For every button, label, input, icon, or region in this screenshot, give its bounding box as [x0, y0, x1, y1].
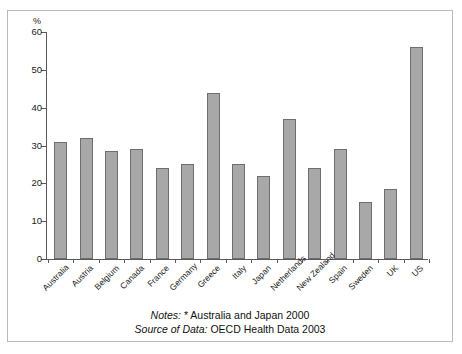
x-tick-mark — [99, 259, 100, 263]
y-tick-label: 40 — [31, 101, 42, 114]
x-label-japan: Japan — [243, 263, 273, 293]
chart-figure: % 0102030405060 AustraliaAustriaBelgiumC… — [7, 10, 453, 342]
x-tick-mark — [353, 259, 354, 263]
bar-uk — [384, 189, 397, 259]
source-text: OECD Health Data 2003 — [210, 323, 325, 335]
y-tick-label: 20 — [31, 176, 42, 189]
x-tick-mark — [302, 259, 303, 263]
bar-spain — [334, 149, 347, 259]
x-tick-mark — [251, 259, 252, 263]
bar-slot — [99, 32, 124, 259]
y-tick-label: 10 — [31, 214, 42, 227]
bar-australia — [54, 142, 67, 259]
bar-slot — [73, 32, 98, 259]
x-tick-mark — [200, 259, 201, 263]
bar-france — [156, 168, 169, 259]
x-tick-mark — [73, 259, 74, 263]
x-tick-mark — [378, 259, 379, 263]
bar-netherlands — [283, 119, 296, 259]
y-tick-label: 30 — [31, 139, 42, 152]
notes-label: Notes: — [151, 309, 181, 321]
chart-notes: Notes: * Australia and Japan 2000 Source… — [8, 308, 452, 336]
x-label-sweden: Sweden — [345, 263, 375, 293]
x-label-netherlands: Netherlands — [269, 263, 299, 293]
x-tick-mark — [175, 259, 176, 263]
y-tick-label: 60 — [31, 25, 42, 38]
x-label-belgium: Belgium — [91, 263, 121, 293]
bar-slot — [327, 32, 352, 259]
x-tick-mark — [226, 259, 227, 263]
bar-slot — [251, 32, 276, 259]
source-label: Source of Data: — [135, 323, 208, 335]
x-label-austria: Austria — [65, 263, 95, 293]
bar-slot — [226, 32, 251, 259]
bar-slot — [302, 32, 327, 259]
bar-us — [410, 47, 423, 259]
source-line: Source of Data: OECD Health Data 2003 — [8, 322, 452, 336]
bar-italy — [232, 164, 245, 259]
x-label-germany: Germany — [167, 263, 197, 293]
y-tick-label: 0 — [37, 252, 42, 265]
bar-slot — [277, 32, 302, 259]
bar-slot — [48, 32, 73, 259]
x-tick-mark — [327, 259, 328, 263]
x-tick-mark — [277, 259, 278, 263]
bar-slot — [200, 32, 225, 259]
x-tick-mark — [150, 259, 151, 263]
x-label-us: US — [396, 263, 426, 293]
x-tick-mark — [404, 259, 405, 263]
x-label-uk: UK — [370, 263, 400, 293]
bar-germany — [181, 164, 194, 259]
y-tick-label: 50 — [31, 63, 42, 76]
bar-slot — [353, 32, 378, 259]
bar-slot — [175, 32, 200, 259]
x-tick-mark — [124, 259, 125, 263]
bar-new-zealand — [308, 168, 321, 259]
x-label-italy: Italy — [218, 263, 248, 293]
x-tick-mark — [429, 259, 430, 263]
bar-slot — [150, 32, 175, 259]
x-label-australia: Australia — [40, 263, 70, 293]
bar-austria — [80, 138, 93, 259]
notes-text: * Australia and Japan 2000 — [184, 309, 310, 321]
notes-line: Notes: * Australia and Japan 2000 — [8, 308, 452, 322]
bar-canada — [130, 149, 143, 259]
bar-slot — [124, 32, 149, 259]
x-axis-line — [46, 259, 428, 260]
x-label-france: France — [142, 263, 172, 293]
bar-slot — [404, 32, 429, 259]
bar-greece — [207, 93, 220, 259]
x-tick-mark — [48, 259, 49, 263]
bar-belgium — [105, 151, 118, 259]
bar-japan — [257, 176, 270, 259]
bar-slot — [378, 32, 403, 259]
bar-sweden — [359, 202, 372, 259]
x-label-canada: Canada — [116, 263, 146, 293]
